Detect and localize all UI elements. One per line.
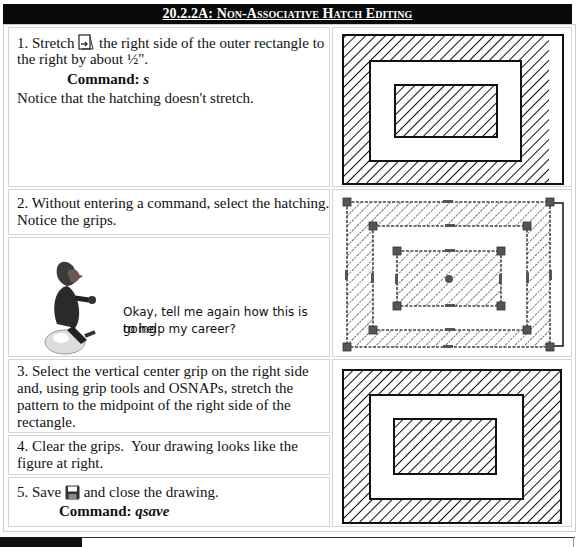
step-text: Save (32, 484, 61, 500)
step-5-cell: 5. Save and close the drawing. Command: … (8, 477, 330, 527)
step-number: 3. (17, 363, 28, 379)
cartoon-character-image (37, 246, 127, 356)
step-number: 1. (17, 35, 28, 51)
figure-3-cell (332, 359, 572, 527)
command-label: Command: (67, 71, 140, 87)
step-4-cell: 4. Clear the grips. Your drawing looks l… (8, 435, 330, 475)
command-label: Command: (59, 503, 132, 519)
stretched-rectangle-figure (333, 28, 573, 188)
stretch-icon (78, 34, 95, 51)
step-5-command: Command: qsave (59, 503, 169, 520)
step-2-cell: 2. Without entering a command, select th… (8, 189, 330, 235)
exercise-table: 1. Stretch the right side of the outer r… (3, 24, 576, 532)
step-3-line-1: 3. Select the vertical center grip on th… (17, 363, 309, 380)
step-2-line-1: 2. Without entering a command, select th… (17, 195, 329, 212)
step-3-line-3: pattern to the midpoint of the right sid… (17, 397, 291, 414)
step-3-line-2: and, using grip tools and OSNAPs, stretc… (17, 380, 293, 397)
step-1-note: Notice that the hatching doesn't stretch… (17, 90, 254, 107)
figure-1-cell (332, 27, 572, 187)
save-icon (65, 485, 80, 500)
callout-cell: Okay, tell me again how this is going to… (8, 237, 330, 357)
step-3-cell: 3. Select the vertical center grip on th… (8, 359, 330, 433)
final-hatch-figure (333, 360, 573, 528)
selected-hatch-grips-figure (333, 190, 573, 358)
step-5-line-1: 5. Save and close the drawing. (17, 484, 219, 501)
step-3-line-4: rectangle. (17, 414, 76, 431)
section-title: 20.2.2A: Non-Associative Hatch Editing (163, 6, 413, 22)
step-1-command: Command: s (67, 71, 149, 88)
step-2-line-2: Notice the grips. (17, 212, 117, 229)
step-text: Clear the grips. Your drawing looks like… (32, 438, 298, 454)
divider (573, 537, 574, 547)
figure-2-cell (332, 189, 572, 357)
divider (82, 537, 575, 538)
next-section-header (0, 536, 575, 547)
step-number: 2. (17, 195, 28, 211)
step-text: Without entering a command, select the h… (32, 195, 330, 211)
step-text: Select the vertical center grip on the r… (32, 363, 309, 379)
step-4-line-1: 4. Clear the grips. Your drawing looks l… (17, 438, 298, 455)
step-text: Stretch (32, 35, 75, 51)
step-number: 4. (17, 438, 28, 454)
step-1-cell: 1. Stretch the right side of the outer r… (8, 27, 330, 187)
step-number: 5. (17, 484, 28, 500)
command-value: s (143, 71, 149, 87)
step-1-line-2: the right by about ½". (17, 51, 148, 68)
next-section-tab (0, 537, 82, 547)
section-banner: 20.2.2A: Non-Associative Hatch Editing (3, 4, 572, 24)
callout-text-line-2: to help my career? (123, 321, 236, 338)
step-1-line-1: 1. Stretch the right side of the outer r… (17, 34, 324, 52)
command-value: qsave (135, 503, 169, 519)
step-text: and close the drawing. (84, 484, 219, 500)
step-4-line-2: figure at right. (17, 455, 103, 472)
step-text: the right side of the outer rectangle to (99, 35, 324, 51)
